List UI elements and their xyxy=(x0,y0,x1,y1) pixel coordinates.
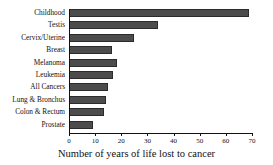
bar-row xyxy=(69,108,104,116)
x-axis-title: Number of years of life lost to cancer xyxy=(0,147,273,160)
bar-row xyxy=(69,96,106,104)
bar-row xyxy=(69,71,113,79)
x-tick-label-30: 30 xyxy=(137,137,157,145)
category-label-all-cancers: All Cancers xyxy=(0,83,65,91)
category-label-lung-bronchus: Lung & Bronchus xyxy=(0,96,65,104)
category-axis-labels: Childhood Testis Cervix/Uterine Breast M… xyxy=(0,9,67,133)
plot-area xyxy=(69,9,252,133)
y-axis-line xyxy=(69,9,70,134)
category-label-cervix-uterine: Cervix/Uterine xyxy=(0,34,65,42)
x-tick-50 xyxy=(200,133,201,136)
bar-leukemia xyxy=(69,71,113,79)
bar-melanoma xyxy=(69,59,117,67)
x-tick-label-70: 70 xyxy=(242,137,262,145)
x-tick-60 xyxy=(226,133,227,136)
category-label-leukemia: Leukemia xyxy=(0,71,65,79)
x-tick-0 xyxy=(69,133,70,136)
bar-row xyxy=(69,34,134,42)
category-label-colon-rectum: Colon & Rectum xyxy=(0,108,65,116)
category-label-childhood: Childhood xyxy=(0,9,65,17)
bar-all-cancers xyxy=(69,83,108,91)
chart-container: Childhood Testis Cervix/Uterine Breast M… xyxy=(0,0,273,165)
x-tick-40 xyxy=(174,133,175,136)
bar-childhood xyxy=(69,9,249,17)
category-label-testis: Testis xyxy=(0,21,65,29)
bar-row xyxy=(69,59,117,67)
x-tick-label-0: 0 xyxy=(59,137,79,145)
category-label-breast: Breast xyxy=(0,46,65,54)
x-tick-label-10: 10 xyxy=(85,137,105,145)
x-tick-label-40: 40 xyxy=(164,137,184,145)
bar-row xyxy=(69,83,108,91)
bar-cervix-uterine xyxy=(69,34,134,42)
bar-row xyxy=(69,21,158,29)
bar-lung-bronchus xyxy=(69,96,106,104)
bar-breast xyxy=(69,46,112,54)
bar-colon-rectum xyxy=(69,108,104,116)
x-tick-20 xyxy=(121,133,122,136)
bar-row xyxy=(69,121,93,129)
x-tick-10 xyxy=(95,133,96,136)
x-tick-70 xyxy=(252,133,253,136)
bar-prostate xyxy=(69,121,93,129)
x-tick-30 xyxy=(147,133,148,136)
bar-row xyxy=(69,46,112,54)
bar-row xyxy=(69,9,249,17)
bar-testis xyxy=(69,21,158,29)
category-label-melanoma: Melanoma xyxy=(0,59,65,67)
category-label-prostate: Prostate xyxy=(0,121,65,129)
x-tick-label-60: 60 xyxy=(216,137,236,145)
x-tick-label-20: 20 xyxy=(111,137,131,145)
x-tick-label-50: 50 xyxy=(190,137,210,145)
